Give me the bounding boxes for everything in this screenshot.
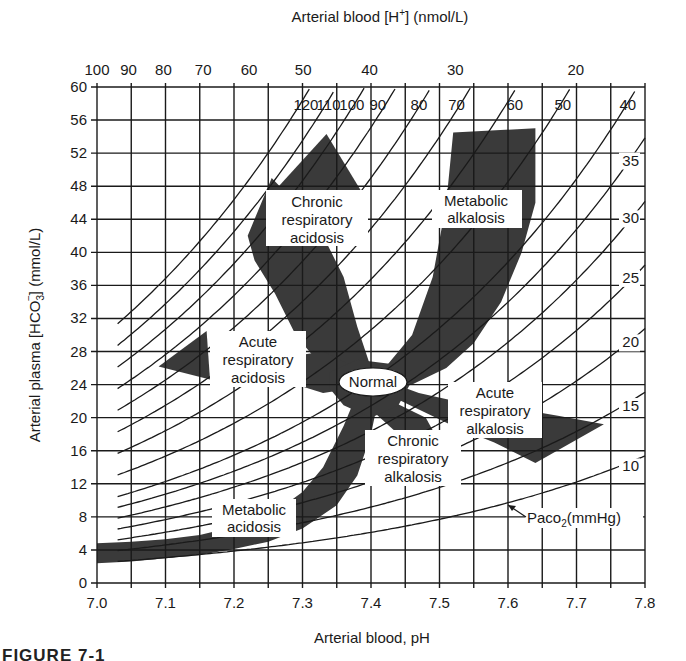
svg-text:80: 80 — [411, 96, 428, 113]
svg-text:15: 15 — [622, 397, 639, 414]
svg-text:40: 40 — [70, 243, 87, 260]
svg-text:60: 60 — [241, 61, 258, 78]
svg-text:Normal: Normal — [349, 373, 397, 390]
svg-text:70: 70 — [195, 61, 212, 78]
svg-text:7.5: 7.5 — [429, 594, 450, 611]
top-axis-title: Arterial blood [H+] (nmol/L) — [292, 7, 469, 25]
svg-text:16: 16 — [70, 442, 87, 459]
label-acute-respiratory-alkalosis: Acute respiratory alkalosis — [448, 382, 542, 438]
svg-text:80: 80 — [155, 61, 172, 78]
svg-text:36: 36 — [70, 276, 87, 293]
svg-text:4: 4 — [79, 541, 87, 558]
svg-text:70: 70 — [448, 96, 465, 113]
svg-text:30: 30 — [622, 209, 639, 226]
svg-text:respiratory: respiratory — [460, 402, 531, 419]
svg-text:respiratory: respiratory — [282, 211, 353, 228]
svg-text:Metabolic: Metabolic — [222, 501, 287, 518]
svg-text:24: 24 — [70, 376, 87, 393]
svg-text:7.0: 7.0 — [87, 594, 108, 611]
svg-text:25: 25 — [622, 269, 639, 286]
svg-text:alkalosis: alkalosis — [447, 209, 505, 226]
label-metabolic-acidosis: Metabolic acidosis — [212, 499, 296, 537]
svg-text:respiratory: respiratory — [378, 450, 449, 467]
svg-text:Acute: Acute — [476, 384, 514, 401]
svg-text:7.4: 7.4 — [361, 594, 382, 611]
svg-text:44: 44 — [70, 210, 87, 227]
label-normal: Normal — [339, 368, 407, 396]
svg-text:Metabolic: Metabolic — [444, 192, 509, 209]
svg-text:7.8: 7.8 — [635, 594, 656, 611]
svg-text:respiratory: respiratory — [223, 351, 294, 368]
label-chronic-respiratory-alkalosis: Chronic respiratory alkalosis — [365, 430, 461, 486]
svg-text:Acute: Acute — [239, 333, 277, 350]
svg-text:7.2: 7.2 — [224, 594, 245, 611]
svg-text:52: 52 — [70, 144, 87, 161]
y-axis-title: Arterial plasma [HCO3−] (mmol/L) — [23, 228, 46, 443]
svg-text:alkalosis: alkalosis — [384, 468, 442, 485]
svg-text:acidosis: acidosis — [231, 369, 285, 386]
svg-text:8: 8 — [79, 508, 87, 525]
svg-text:7.1: 7.1 — [155, 594, 176, 611]
svg-text:100: 100 — [84, 61, 109, 78]
svg-text:20: 20 — [70, 409, 87, 426]
label-paco2: Paco2(mmHg) — [508, 505, 643, 529]
svg-text:35: 35 — [622, 152, 639, 169]
svg-text:90: 90 — [120, 61, 137, 78]
svg-text:10: 10 — [622, 457, 639, 474]
x-axis-title: Arterial blood, pH — [314, 629, 430, 646]
svg-text:60: 60 — [507, 96, 524, 113]
svg-text:32: 32 — [70, 309, 87, 326]
paco2-isopleths: 120110100908070605040353025201510 — [118, 88, 645, 561]
svg-text:50: 50 — [554, 96, 571, 113]
figure-caption: FIGURE 7-1 — [2, 646, 106, 661]
svg-text:Chronic: Chronic — [387, 432, 439, 449]
svg-text:20: 20 — [622, 333, 639, 350]
svg-text:7.6: 7.6 — [498, 594, 519, 611]
label-metabolic-alkalosis: Metabolic alkalosis — [432, 190, 522, 228]
svg-text:50: 50 — [295, 61, 312, 78]
svg-text:110: 110 — [317, 96, 341, 113]
svg-text:0: 0 — [79, 574, 87, 591]
svg-text:90: 90 — [370, 96, 387, 113]
svg-text:40: 40 — [620, 96, 637, 113]
svg-text:30: 30 — [447, 61, 464, 78]
svg-text:20: 20 — [567, 61, 584, 78]
svg-text:Chronic: Chronic — [291, 193, 343, 210]
svg-text:28: 28 — [70, 343, 87, 360]
svg-text:48: 48 — [70, 177, 87, 194]
svg-text:12: 12 — [70, 475, 87, 492]
svg-text:7.3: 7.3 — [292, 594, 313, 611]
svg-text:7.7: 7.7 — [566, 594, 587, 611]
acid-base-nomogram: 120110100908070605040353025201510 7.07.1… — [0, 0, 686, 661]
svg-text:alkalosis: alkalosis — [466, 420, 524, 437]
svg-text:60: 60 — [70, 78, 87, 95]
label-chronic-respiratory-acidosis: Chronic respiratory acidosis — [266, 190, 368, 246]
svg-text:acidosis: acidosis — [227, 518, 281, 535]
svg-text:acidosis: acidosis — [290, 229, 344, 246]
svg-text:100: 100 — [339, 96, 364, 113]
label-acute-respiratory-acidosis: Acute respiratory acidosis — [210, 331, 306, 387]
svg-text:56: 56 — [70, 111, 87, 128]
svg-text:40: 40 — [361, 61, 378, 78]
svg-text:120: 120 — [293, 96, 318, 113]
